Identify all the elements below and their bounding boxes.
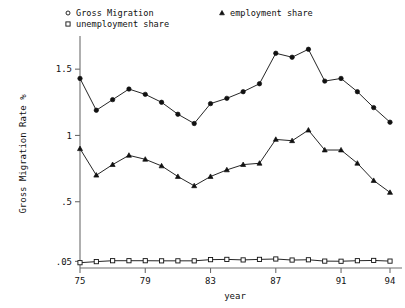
y-tick-label: 1.5 <box>56 64 72 74</box>
data-point <box>176 259 180 263</box>
data-point <box>192 259 196 263</box>
data-point <box>306 47 310 51</box>
data-point <box>273 137 278 142</box>
chart-canvas: .05.511.5757983879194yearGross Migration… <box>0 0 405 308</box>
data-point <box>159 259 163 263</box>
series-gross-migration <box>78 47 392 126</box>
data-point <box>388 259 392 263</box>
data-point <box>225 257 229 261</box>
data-point <box>388 190 393 195</box>
data-point <box>78 261 82 265</box>
data-point <box>78 76 82 80</box>
data-point <box>274 257 278 261</box>
data-point <box>110 97 114 101</box>
legend-item-employment-share[interactable]: employment share <box>220 8 313 18</box>
data-point <box>94 260 98 264</box>
y-tick-label: .5 <box>61 197 72 207</box>
data-point <box>323 259 327 263</box>
data-point <box>372 258 376 262</box>
data-point <box>192 121 196 125</box>
data-point <box>290 55 294 59</box>
x-axis-title: year <box>224 291 246 301</box>
y-tick-label: 1 <box>67 131 72 141</box>
data-point <box>94 108 98 112</box>
x-tick-label: 94 <box>385 276 396 286</box>
legend-marker-circle-icon <box>66 11 70 15</box>
data-point <box>208 101 212 105</box>
data-point <box>274 51 278 55</box>
data-point <box>192 183 197 188</box>
data-point <box>225 96 229 100</box>
y-tick-label: .05 <box>56 257 72 267</box>
legend-label: employment share <box>230 8 313 18</box>
data-point <box>339 259 343 263</box>
data-point <box>127 87 131 91</box>
legend-item-gross-migration[interactable]: Gross Migration <box>66 8 154 18</box>
data-point <box>208 258 212 262</box>
data-point <box>111 259 115 263</box>
x-tick-label: 79 <box>140 276 151 286</box>
data-point <box>143 92 147 96</box>
x-tick-label: 91 <box>336 276 347 286</box>
series-line <box>80 130 390 192</box>
data-point <box>355 259 359 263</box>
legend-label: Gross Migration <box>76 8 154 18</box>
x-tick-label: 87 <box>270 276 281 286</box>
data-point <box>110 162 115 167</box>
data-point <box>339 76 343 80</box>
data-point <box>241 89 245 93</box>
legend-marker-square-icon <box>66 22 70 26</box>
series-line <box>80 49 390 123</box>
data-point <box>257 257 261 261</box>
data-point <box>371 105 375 109</box>
data-point <box>126 153 131 158</box>
y-axis-title: Gross Migration Rate % <box>18 94 28 214</box>
data-point <box>94 173 99 178</box>
data-point <box>159 100 163 104</box>
data-point <box>323 79 327 83</box>
data-point <box>388 120 392 124</box>
data-point <box>143 259 147 263</box>
x-tick-label: 75 <box>75 276 86 286</box>
data-point <box>257 82 261 86</box>
series-employment-share <box>78 128 393 195</box>
series-unemployment-share <box>78 257 392 265</box>
data-point <box>176 112 180 116</box>
data-point <box>241 258 245 262</box>
data-point <box>290 258 294 262</box>
legend-marker-triangle-icon <box>220 11 225 15</box>
legend-label: unemployment share <box>76 19 169 29</box>
legend-item-unemployment-share[interactable]: unemployment share <box>66 19 169 29</box>
chart-figure: .05.511.5757983879194yearGross Migration… <box>0 0 405 308</box>
data-point <box>78 146 83 151</box>
data-point <box>355 89 359 93</box>
data-point <box>306 258 310 262</box>
x-tick-label: 83 <box>205 276 216 286</box>
data-point <box>306 128 311 133</box>
data-point <box>127 259 131 263</box>
data-point <box>175 174 180 179</box>
